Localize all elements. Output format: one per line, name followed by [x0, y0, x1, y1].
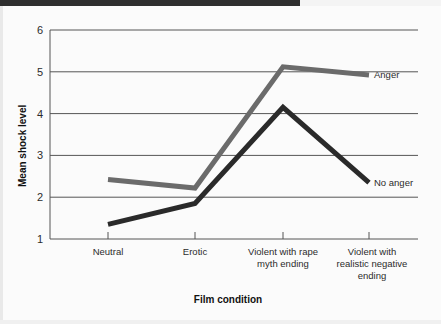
series-line-anger	[108, 67, 369, 188]
category-label-erotic: Erotic	[183, 246, 208, 257]
y-tick-labels: 6 5 4 3 2 1	[37, 24, 43, 245]
x-category-labels: Neutral Erotic Violent with rape myth en…	[93, 246, 408, 281]
y-tick-label-6: 6	[37, 24, 43, 36]
chart-page: 6 5 4 3 2 1 Anger No anger Neutral Eroti…	[0, 0, 441, 324]
y-tick-label-5: 5	[37, 66, 43, 78]
series-label-anger: Anger	[374, 69, 399, 80]
category-label-neutral: Neutral	[93, 246, 124, 257]
category-label-violent-realistic-line1: Violent with	[348, 246, 396, 257]
x-axis-ticks	[108, 232, 369, 239]
y-tick-label-2: 2	[37, 191, 43, 203]
y-axis-title: Mean shock level	[17, 105, 28, 187]
y-tick-label-1: 1	[37, 233, 43, 245]
category-label-violent-realistic-line2: realistic negative	[337, 258, 408, 269]
category-label-violent-rape-myth-line1: Violent with rape	[248, 246, 318, 257]
series-label-no-anger: No anger	[374, 177, 413, 188]
x-axis-title: Film condition	[194, 294, 262, 305]
y-tick-label-4: 4	[37, 108, 43, 120]
line-chart: 6 5 4 3 2 1 Anger No anger Neutral Eroti…	[0, 0, 441, 324]
category-label-violent-realistic-line3: ending	[358, 270, 387, 281]
category-label-violent-rape-myth-line2: myth ending	[257, 258, 309, 269]
y-tick-label-3: 3	[37, 149, 43, 161]
